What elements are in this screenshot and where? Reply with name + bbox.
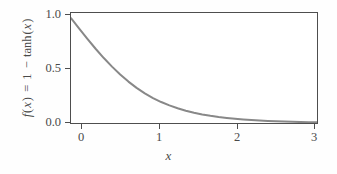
xtick-label-3: 3 xyxy=(299,130,329,144)
y-axis-label: f(x) = 1 − tanh(x) xyxy=(20,0,35,143)
ylabel-var-1: x xyxy=(20,102,34,108)
ylabel-function-name: tanh xyxy=(20,36,34,58)
ylabel-f: f xyxy=(20,114,34,117)
plot-area xyxy=(70,12,318,124)
ytick-mark-0 xyxy=(65,122,70,123)
xtick-mark-3 xyxy=(314,124,315,129)
ylabel-paren-close-2: ) xyxy=(20,18,34,24)
ylabel-minus: − xyxy=(20,60,34,69)
xtick-label-2: 2 xyxy=(222,130,252,144)
ylabel-paren-open: ( xyxy=(20,108,34,114)
curve-svg xyxy=(71,13,317,123)
data-series-line xyxy=(71,18,317,122)
xtick-label-1: 1 xyxy=(144,130,174,144)
ylabel-equals: = xyxy=(20,84,34,93)
ylabel-var-2: x xyxy=(20,24,34,30)
ylabel-paren-open-2: ( xyxy=(20,29,34,35)
ytick-mark-2 xyxy=(65,14,70,15)
xtick-mark-2 xyxy=(237,124,238,129)
figure-canvas: 0 1 2 3 0.0 0.5 1.0 x f(x) = 1 − tanh(x) xyxy=(0,0,337,174)
ytick-mark-1 xyxy=(65,68,70,69)
ylabel-one: 1 xyxy=(20,72,34,80)
xtick-label-0: 0 xyxy=(66,130,96,144)
x-axis-label: x xyxy=(0,148,337,164)
xtick-mark-1 xyxy=(159,124,160,129)
ylabel-paren-close: ) xyxy=(20,96,34,102)
xtick-mark-0 xyxy=(81,124,82,129)
